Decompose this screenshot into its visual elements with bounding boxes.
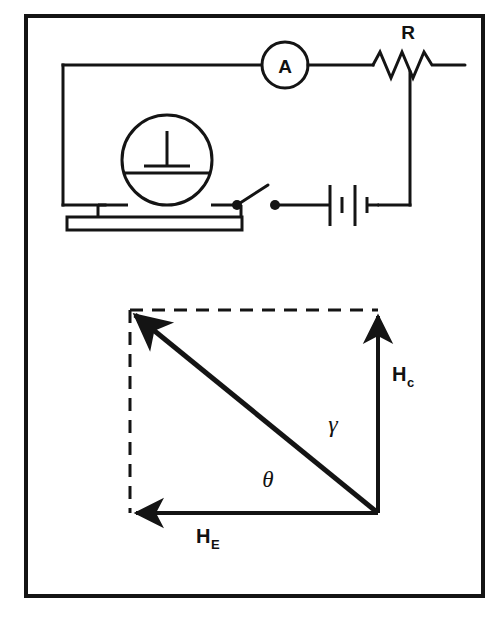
label-h-earth: H E: [196, 525, 220, 552]
switch-contact-right: [270, 200, 280, 210]
h-coil-main: H: [392, 363, 406, 385]
circuit-diagram: A R: [63, 22, 465, 230]
vector-h-resultant: [135, 315, 378, 513]
h-earth-main: H: [196, 525, 210, 547]
ammeter-label: A: [278, 56, 292, 77]
physics-figure: A R: [0, 0, 500, 618]
switch-blade: [237, 185, 268, 205]
h-earth-subscript: E: [211, 537, 220, 552]
resistor-label: R: [401, 22, 415, 43]
galvanometer-base: [67, 205, 242, 230]
figure-root: A R: [0, 0, 500, 618]
base-plinth: [67, 217, 242, 230]
battery-symbol: [275, 185, 379, 226]
angle-theta-label: θ: [262, 467, 273, 492]
h-coil-subscript: c: [407, 375, 414, 390]
resistor-symbol: [373, 52, 465, 78]
figure-border: [26, 16, 483, 596]
angle-gamma-label: γ: [328, 411, 338, 437]
label-h-coil: H c: [392, 363, 414, 390]
vector-diagram: H c H E γ θ: [130, 310, 414, 552]
galvanometer-symbol: [122, 115, 212, 205]
